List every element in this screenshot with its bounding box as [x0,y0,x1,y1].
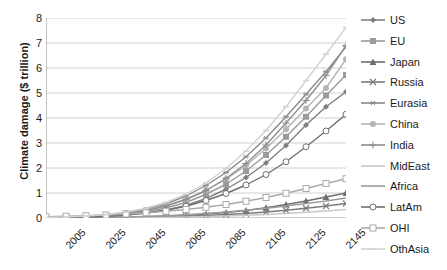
legend-marker-icon [360,75,386,89]
x-axis-tick-label: 2085 [223,226,248,251]
data-point [183,207,189,213]
y-axis-tick-label: 2 [36,161,42,175]
data-point [143,210,149,216]
y-axis-tick-label: 8 [36,11,42,25]
series-ohi [46,176,346,218]
data-point [303,114,309,120]
chart-canvas [46,18,346,218]
legend-item-label: Eurasia [386,97,427,109]
legend-marker-icon [360,221,386,235]
x-axis-tick-labels: 20052025204520652085210521252145 [0,220,360,268]
data-point [343,176,346,182]
y-axis-tick-labels: 012345678 [20,10,42,226]
legend-marker-icon [360,117,386,131]
y-axis-tick-label: 5 [36,86,42,100]
legend-item-label: US [386,14,405,26]
y-axis-tick-label: 4 [36,111,42,125]
data-point [323,85,329,91]
legend-item-label: India [386,139,414,151]
series-china [46,56,346,218]
legend-item-label: Japan [386,56,420,68]
data-point [263,136,269,140]
legend-item-latam[interactable]: LatAm [360,197,422,217]
legend-item-us[interactable]: US [360,10,405,30]
data-point [343,56,346,62]
x-axis-tick-label: 2125 [303,226,328,251]
data-point [303,106,309,112]
x-axis-tick-label: 2105 [263,226,288,251]
legend-item-label: Africa [386,180,418,192]
data-point [303,186,309,192]
y-axis-tick-label: 1 [36,186,42,200]
plot-area [46,18,346,218]
data-point [203,204,209,210]
series-line [46,75,346,218]
data-point [283,134,289,140]
data-point [243,168,249,174]
data-point [223,170,229,174]
data-point [243,155,249,159]
legend-item-label: OthAsia [386,243,429,255]
series-line [46,59,346,218]
legend-item-ohi[interactable]: OHI [360,218,410,238]
legend-marker-icon [360,242,386,256]
legend-marker-icon [360,13,386,27]
legend-item-label: MidEast [386,160,430,172]
y-axis-tick-label: 3 [36,136,42,150]
data-point [223,191,229,197]
data-point [203,198,209,204]
y-axis-tick-label: 6 [36,61,42,75]
legend-marker-icon [360,200,386,214]
y-axis-tick-label: 7 [36,36,42,50]
legend-item-label: OHI [386,222,410,234]
data-point [163,208,169,214]
legend-item-russia[interactable]: Russia [360,72,424,92]
legend-marker-icon [360,55,386,69]
legend-item-label: LatAm [386,201,422,213]
x-axis-tick-label: 2005 [63,226,88,251]
data-point [243,198,249,204]
data-point [263,195,269,201]
series-eurasia [46,45,346,218]
data-point [323,128,329,134]
legend-item-eu[interactable]: EU [360,31,405,51]
data-point [323,93,329,99]
legend-item-china[interactable]: China [360,114,419,134]
legend-marker-icon [360,179,386,193]
data-point [343,72,346,78]
legend-item-label: EU [386,35,405,47]
legend-item-mideast[interactable]: MidEast [360,156,430,176]
legend-item-india[interactable]: India [360,135,414,155]
legend-item-label: China [386,118,419,130]
legend-item-eurasia[interactable]: Eurasia [360,93,427,113]
series-line [46,46,346,218]
series-line [46,47,346,218]
data-point [283,190,289,196]
legend-item-africa[interactable]: Africa [360,176,418,196]
legend-marker-icon [360,96,386,110]
data-point [283,159,289,165]
legend-marker-icon [360,159,386,173]
legend-marker-icon [360,138,386,152]
series-eu [46,72,346,218]
chart-legend: USEUJapanRussiaEurasiaChinaIndiaMidEastA… [360,10,447,265]
data-point [323,181,329,187]
legend-item-japan[interactable]: Japan [360,52,420,72]
data-point [303,144,309,150]
data-point [263,172,269,178]
legend-item-othasia[interactable]: OthAsia [360,239,429,259]
chart-root: Climate damage ($ trillion) 012345678 20… [0,0,447,270]
x-axis-tick-label: 2025 [103,226,128,251]
legend-marker-icon [360,34,386,48]
data-point [283,126,289,132]
data-point [223,202,229,208]
x-axis-tick-label: 2065 [183,226,208,251]
data-point [243,182,249,188]
legend-item-label: Russia [386,76,424,88]
data-point [343,111,346,117]
x-axis-tick-label: 2045 [143,226,168,251]
data-point [263,152,269,158]
